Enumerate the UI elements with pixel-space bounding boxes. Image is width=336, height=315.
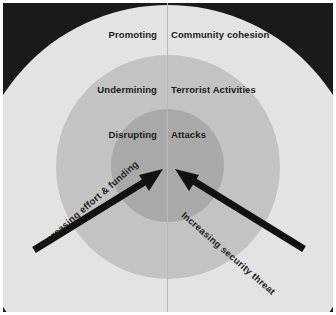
diagram-frame: Promoting Community cohesion Undermining… [3,3,333,312]
diagram-figure: Promoting Community cohesion Undermining… [0,0,336,315]
right-arrow-icon [175,169,304,249]
arrows-group [3,3,333,312]
